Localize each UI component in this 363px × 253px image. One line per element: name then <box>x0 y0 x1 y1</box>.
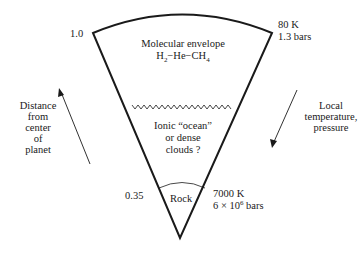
outer-temperature-label: 80 K <box>278 19 299 30</box>
ocean-label-line2: or dense <box>140 132 226 143</box>
temperature-arrow-line <box>273 90 297 144</box>
arrow-up-icon <box>58 88 64 97</box>
inner-pressure-label: 6 × 106 bars <box>213 200 264 211</box>
ocean-label-line1: Ionic “ocean” <box>140 120 226 131</box>
rock-core-label: Rock <box>170 193 192 204</box>
distance-axis-label: Distance from center of planet <box>13 100 63 155</box>
ocean-label-line3: clouds ? <box>140 144 226 155</box>
envelope-label: Molecular envelope <box>132 38 234 49</box>
rock-core-boundary-arc <box>159 183 205 189</box>
distance-arrow-line <box>61 92 90 164</box>
ocean-boundary-wavy-line <box>132 105 231 109</box>
inner-temperature-label: 7000 K <box>213 188 244 199</box>
envelope-formula: H2−He−CH4 <box>132 50 234 61</box>
rock-radius-label: 0.35 <box>125 190 143 201</box>
temperature-axis-label: Local temperature, pressure <box>300 100 362 133</box>
outer-pressure-label: 1.3 bars <box>278 31 311 42</box>
arrow-down-icon <box>270 139 277 148</box>
outer-radius-label: 1.0 <box>70 28 83 39</box>
